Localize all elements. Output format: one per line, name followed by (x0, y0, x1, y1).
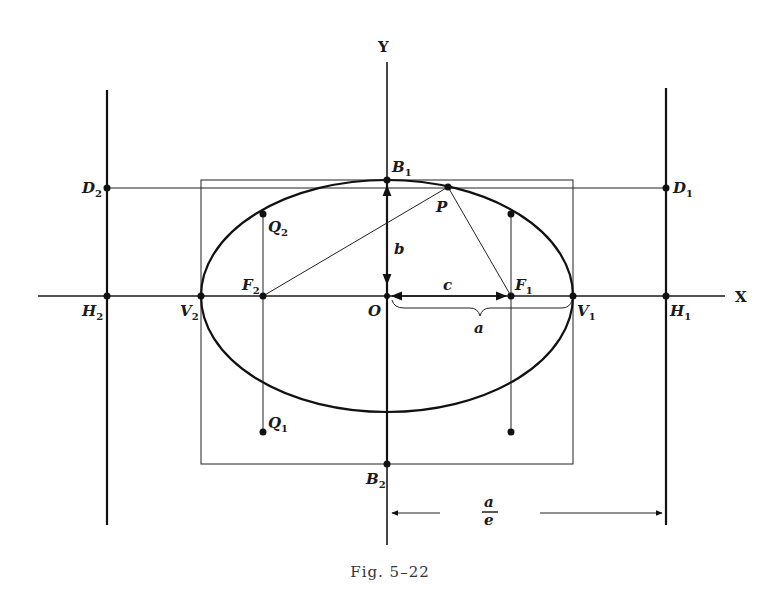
label-c-segment: c (443, 276, 452, 294)
label-b1: B1 (391, 158, 412, 178)
dot-latus-right-top (508, 211, 515, 218)
label-q1: Q1 (268, 414, 288, 434)
dot-f2 (260, 293, 267, 300)
label-q2: Q2 (268, 218, 288, 238)
dot-b2 (384, 461, 391, 468)
label-h2: H2 (81, 302, 103, 322)
label-p: P (435, 198, 448, 216)
label-h1: H1 (669, 302, 691, 322)
dot-v2 (198, 293, 205, 300)
label-origin: O (368, 302, 381, 320)
label-v2: V2 (180, 302, 199, 322)
label-d2: D2 (81, 179, 102, 199)
dot-o (384, 293, 390, 299)
dot-h1 (663, 293, 670, 300)
label-a-over-e-denominator: e (484, 511, 494, 529)
dot-d1 (663, 185, 670, 192)
label-f1: F1 (514, 276, 533, 296)
label-v1: V1 (577, 302, 596, 322)
dot-v1 (570, 293, 577, 300)
dot-latus-right-bottom (508, 429, 515, 436)
dot-d2 (104, 185, 111, 192)
ellipse-diagram: Y X O B1 B2 D1 D2 F1 F2 V1 V2 H1 H2 Q2 Q… (0, 0, 780, 610)
label-y-axis: Y (377, 38, 389, 56)
dot-b1 (384, 177, 391, 184)
focal-radius-f1-p (448, 187, 511, 296)
label-a-segment: a (474, 319, 484, 337)
dot-q2 (260, 211, 267, 218)
figure-caption: Fig. 5–22 (350, 563, 429, 581)
dot-q1 (260, 429, 267, 436)
dot-f1 (508, 293, 515, 300)
label-f2: F2 (241, 276, 260, 296)
label-x-axis: X (735, 288, 747, 306)
label-a-over-e-numerator: a (484, 493, 494, 511)
label-b2: B2 (365, 470, 386, 490)
dot-p (445, 184, 452, 191)
a-brace (392, 300, 572, 316)
label-b-segment: b (394, 240, 405, 258)
label-d1: D1 (672, 179, 693, 199)
dot-h2 (104, 293, 111, 300)
focal-radius-f2-p (263, 187, 448, 296)
